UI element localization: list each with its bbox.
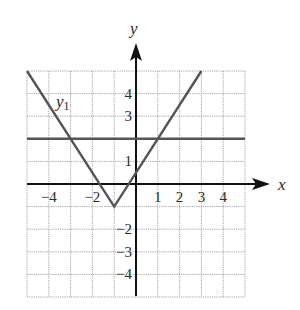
axes: [27, 43, 270, 296]
x-tick-label: 2: [176, 189, 184, 205]
y-axis-label: y: [128, 19, 138, 38]
y-tick-label: 3: [125, 108, 133, 124]
y-tick-label: 1: [125, 153, 133, 169]
x-tick-label: −2: [84, 189, 100, 205]
x-tick-label: −4: [41, 189, 57, 205]
x-tick-labels: −4−21234: [41, 189, 228, 205]
x-tick-label: 1: [154, 189, 162, 205]
y-tick-label: 4: [125, 86, 133, 102]
x-tick-label: 4: [219, 189, 227, 205]
y-tick-label: −3: [116, 244, 132, 260]
y-tick-label: −4: [116, 266, 132, 282]
series-label-y1: y1: [54, 92, 70, 113]
graph: x y y1 −4−21234 431−2−3−4: [0, 0, 300, 310]
x-tick-label: 3: [198, 189, 206, 205]
x-axis-label: x: [277, 175, 286, 194]
y-tick-label: −2: [116, 221, 132, 237]
